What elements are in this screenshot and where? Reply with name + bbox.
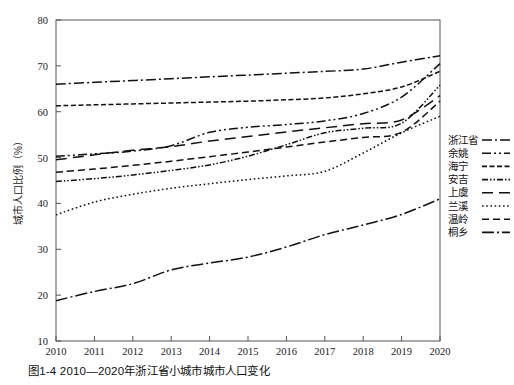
x-tick-label: 2013 <box>161 346 182 357</box>
legend-label-3: 安吉 <box>448 173 468 185</box>
x-tick-label: 2012 <box>122 346 143 357</box>
legend-label-5: 兰溪 <box>448 200 469 212</box>
x-tick-label: 2019 <box>391 346 412 357</box>
y-tick-label: 80 <box>38 15 49 26</box>
x-tick-label: 2018 <box>353 346 374 357</box>
y-tick-label: 40 <box>38 198 49 209</box>
x-tick-label: 2015 <box>238 346 259 357</box>
series-line-1 <box>56 64 440 157</box>
series-line-7 <box>56 199 440 301</box>
plot-frame <box>56 20 440 341</box>
legend-label-0: 浙江省 <box>448 134 478 146</box>
series-line-5 <box>56 116 440 215</box>
figure-caption: 图1-4 2010—2020年浙江省小城市城市人口变化 <box>28 362 270 378</box>
series-line-2 <box>56 71 440 105</box>
line-chart: 1020304050607080201020112012201320142015… <box>0 0 514 385</box>
y-tick-label: 60 <box>38 107 49 118</box>
y-tick-label: 50 <box>38 153 49 164</box>
legend-label-7: 桐乡 <box>448 226 468 238</box>
legend-label-6: 温岭 <box>448 213 469 225</box>
legend-label-2: 海宁 <box>448 160 468 172</box>
x-tick-label: 2011 <box>84 346 105 357</box>
x-tick-label: 2016 <box>276 346 297 357</box>
x-tick-label: 2017 <box>314 346 335 357</box>
y-tick-label: 20 <box>38 290 49 301</box>
series-line-0 <box>56 56 440 84</box>
legend-label-1: 余姚 <box>448 147 469 159</box>
y-axis-title: 城市人口比例（%） <box>12 136 24 225</box>
x-tick-label: 2010 <box>46 346 67 357</box>
figure-container: 1020304050607080201020112012201320142015… <box>0 0 514 385</box>
legend-label-4: 上虞 <box>448 186 469 198</box>
x-tick-label: 2014 <box>199 346 221 357</box>
x-tick-label: 2020 <box>430 346 451 357</box>
y-tick-label: 70 <box>38 61 49 72</box>
y-tick-label: 30 <box>38 244 49 255</box>
